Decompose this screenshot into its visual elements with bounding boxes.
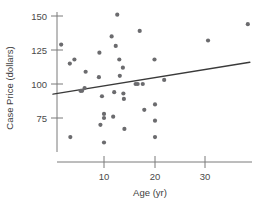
x-axis-title: Age (yr) (133, 187, 167, 198)
x-tick-label-10: 10 (99, 171, 110, 182)
y-axis-title: Case Price (dollars) (4, 46, 15, 129)
data-point (162, 78, 166, 82)
data-point (206, 38, 210, 42)
data-point (153, 135, 157, 139)
data-point (114, 44, 118, 48)
data-point (153, 102, 157, 106)
data-point (121, 91, 125, 95)
data-point (68, 62, 72, 66)
data-point (59, 42, 63, 46)
data-point (121, 66, 125, 70)
data-point (122, 127, 126, 131)
x-tick-label-30: 30 (200, 171, 211, 182)
data-point (122, 97, 126, 101)
data-point (138, 29, 142, 33)
data-point (118, 74, 122, 78)
data-point (142, 108, 146, 112)
data-point (246, 22, 250, 26)
data-point (68, 135, 72, 139)
x-tick-label-20: 20 (150, 171, 161, 182)
data-point (110, 34, 114, 38)
data-point (153, 119, 157, 123)
data-point (115, 13, 119, 17)
y-tick-label-75: 75 (36, 113, 47, 124)
y-tick-label-150: 150 (31, 11, 47, 22)
data-point (97, 51, 101, 55)
data-point (84, 70, 88, 74)
data-point (117, 57, 121, 61)
y-tick-label-125: 125 (31, 45, 47, 56)
data-point (112, 90, 116, 94)
data-point (97, 75, 101, 79)
data-point (83, 86, 87, 90)
chart-canvas: 150 125 100 75 10 20 30 Age (yr) Case Pr… (0, 0, 262, 202)
data-point (152, 57, 156, 61)
data-point (102, 112, 106, 116)
data-point (100, 94, 104, 98)
data-point (72, 57, 76, 61)
scatter-points-group (59, 13, 250, 145)
data-point (136, 82, 140, 86)
scatter-plot-figure: 150 125 100 75 10 20 30 Age (yr) Case Pr… (0, 0, 262, 202)
data-point (98, 123, 102, 127)
y-tick-label-100: 100 (31, 79, 47, 90)
data-point (141, 82, 145, 86)
data-point (102, 140, 106, 144)
data-point (111, 115, 115, 119)
data-point (102, 116, 106, 120)
